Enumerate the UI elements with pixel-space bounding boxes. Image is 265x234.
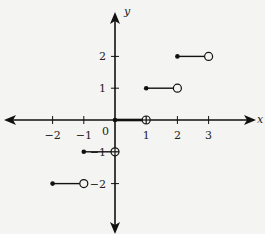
x-tick-label: 3 (205, 129, 212, 142)
axes (4, 12, 256, 234)
x-tick-label: −1 (76, 129, 92, 142)
x-tick-label: 1 (143, 129, 150, 142)
x-axis-label: x (257, 113, 264, 126)
x-tick-label: −2 (44, 129, 60, 142)
y-tick-label: 1 (99, 82, 106, 95)
y-axis-label: y (123, 5, 131, 18)
step-segment (175, 52, 213, 60)
y-tick-label: 2 (99, 50, 106, 63)
step-function-chart: −2−1123−2−112 x y 0 (0, 0, 265, 234)
step-segment (144, 84, 182, 92)
y-tick-label: −2 (90, 178, 106, 191)
origin-label: 0 (102, 125, 109, 138)
open-endpoint-icon (80, 180, 88, 188)
open-endpoint-icon (205, 52, 213, 60)
step-segment (113, 116, 151, 124)
closed-endpoint-icon (144, 86, 149, 91)
step-segment (50, 180, 88, 188)
open-endpoint-icon (173, 84, 181, 92)
closed-endpoint-icon (113, 118, 118, 123)
closed-endpoint-icon (82, 150, 87, 155)
x-tick-label: 2 (174, 129, 181, 142)
closed-endpoint-icon (175, 54, 180, 59)
closed-endpoint-icon (50, 181, 55, 186)
